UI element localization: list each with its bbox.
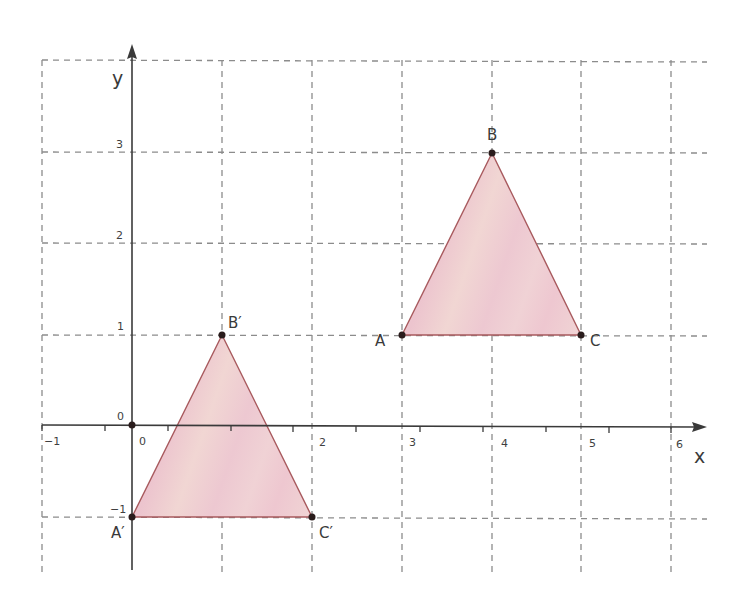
coordinate-plane: y x −1 0 2 3 4 5 6 3 2 1 0 −1 A B C A′ B… bbox=[0, 0, 746, 604]
x-tick-label-0: 0 bbox=[139, 435, 146, 448]
x-tick-label-5: 5 bbox=[589, 437, 596, 450]
point-c bbox=[578, 332, 585, 339]
y-axis-label: y bbox=[112, 67, 123, 89]
y-tick-label-2: 2 bbox=[116, 229, 123, 242]
x-tick-label-6: 6 bbox=[676, 438, 683, 451]
label-c: C bbox=[590, 332, 600, 350]
x-axis-label: x bbox=[694, 445, 705, 467]
x-tick-labels: −1 0 2 3 4 5 6 bbox=[44, 435, 683, 451]
label-b-prime: B′ bbox=[228, 314, 242, 332]
label-c-prime: C′ bbox=[319, 524, 333, 542]
x-tick-label-2: 2 bbox=[319, 436, 326, 449]
y-tick-labels: 3 2 1 0 −1 bbox=[110, 138, 126, 516]
grid-hline-4 bbox=[42, 60, 707, 62]
origin-label: 0 bbox=[117, 410, 124, 423]
grid-hline-2 bbox=[42, 243, 707, 244]
x-tick-label-neg1: −1 bbox=[44, 435, 60, 448]
point-b bbox=[489, 150, 496, 157]
y-tick-label-neg1: −1 bbox=[110, 503, 126, 516]
point-a-prime bbox=[129, 514, 136, 521]
label-b: B bbox=[487, 126, 497, 144]
grid bbox=[42, 60, 707, 572]
y-axis-arrow-icon bbox=[127, 44, 137, 59]
x-tick-label-4: 4 bbox=[501, 437, 508, 450]
point-a bbox=[399, 332, 406, 339]
y-tick-label-1: 1 bbox=[117, 320, 124, 333]
x-tick-label-3: 3 bbox=[409, 436, 416, 449]
origin-point bbox=[129, 422, 136, 429]
point-c-prime bbox=[309, 514, 316, 521]
label-a: A bbox=[375, 332, 386, 350]
axes bbox=[42, 44, 707, 570]
x-axis bbox=[42, 425, 696, 427]
y-tick-label-3: 3 bbox=[116, 138, 123, 151]
label-a-prime: A′ bbox=[111, 524, 125, 542]
point-b-prime bbox=[219, 332, 226, 339]
x-axis-arrow-icon bbox=[692, 422, 707, 432]
grid-hline-3 bbox=[42, 152, 707, 153]
